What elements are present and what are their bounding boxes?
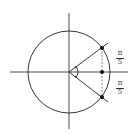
upper-label-numerator: π <box>115 50 125 57</box>
upper-angle-arc <box>76 67 78 73</box>
lower-label-numerator: π <box>115 80 125 87</box>
lower-point <box>100 95 104 99</box>
lower-label-denominator: 5 <box>115 89 125 96</box>
upper-angle-label: π 5 <box>115 50 125 66</box>
upper-point <box>100 46 104 50</box>
axis-point <box>100 70 104 74</box>
lower-angle-label: π 5 <box>115 80 125 96</box>
lower-angle-arc <box>76 72 78 78</box>
unit-circle-diagram <box>0 0 132 134</box>
upper-label-denominator: 5 <box>115 59 125 66</box>
